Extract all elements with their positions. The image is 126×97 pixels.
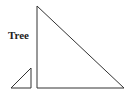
small-triangle bbox=[11, 68, 31, 88]
tree-label: Tree bbox=[8, 29, 29, 41]
similar-triangles-diagram bbox=[0, 0, 126, 97]
big-triangle bbox=[37, 6, 124, 88]
